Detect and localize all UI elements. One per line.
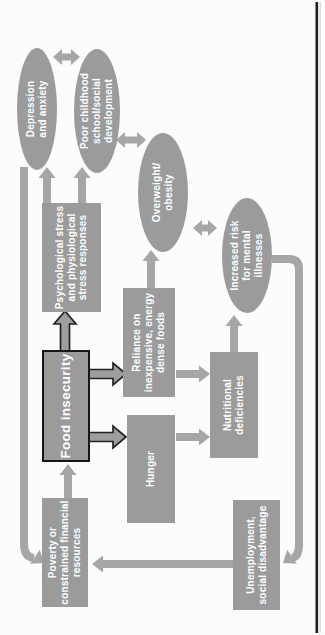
node-hunger-label: Hunger (127, 415, 175, 523)
node-increased-risk-mental-illness: Increased risk for mental illnesses (222, 198, 272, 313)
node-nutritional-deficiencies-label: Nutritional deficiencies (210, 352, 258, 458)
node-unemployment-social-disadvantage: Unemployment, social disadvantage (233, 500, 280, 610)
node-depression-anxiety: Depression and anxiety (17, 48, 57, 170)
node-food-insecurity-label: Food insecurity (44, 352, 88, 460)
arrow-poverty-to-food-insecurity (60, 464, 77, 499)
node-psychological-stress-label: Psychological stress and physiological s… (42, 203, 101, 312)
node-poor-childhood-development-label: Poor childhood school/social development (74, 49, 120, 173)
node-poor-childhood-development: Poor childhood school/social development (74, 49, 120, 173)
node-increased-risk-mental-illness-label: Increased risk for mental illnesses (222, 198, 272, 313)
arrow-nutritional-to-increased-risk (226, 315, 243, 353)
node-poverty-financial-resources: Poverty or constrained financial resourc… (42, 498, 88, 607)
node-nutritional-deficiencies: Nutritional deficiencies (210, 352, 258, 458)
arrow-reliance-to-overweight (143, 250, 160, 289)
flowchart-canvas: Depression and anxiety Poor childhood sc… (0, 0, 325, 635)
node-reliance-energy-dense-foods-label: Reliance on inexpensive, energy dense fo… (123, 288, 175, 397)
node-overweight-obesity: Overweight/ obesity (138, 133, 188, 252)
node-reliance-energy-dense-foods: Reliance on inexpensive, energy dense fo… (123, 288, 175, 397)
node-unemployment-social-disadvantage-label: Unemployment, social disadvantage (233, 500, 280, 610)
arrow-food-to-psych-stress (54, 311, 76, 351)
node-psychological-stress: Psychological stress and physiological s… (42, 203, 101, 312)
feedback-arrow-depression-to-poverty (24, 167, 44, 564)
node-overweight-obesity-label: Overweight/ obesity (138, 133, 188, 252)
double-arrow-overweight-increased-risk (193, 220, 217, 236)
node-poverty-financial-resources-label: Poverty or constrained financial resourc… (42, 498, 88, 607)
arrow-reliance-to-nutritional (176, 366, 210, 383)
arrow-food-to-reliance (89, 363, 126, 385)
arrow-hunger-to-nutritional (176, 429, 210, 446)
node-hunger: Hunger (127, 415, 175, 523)
node-food-insecurity: Food insecurity (42, 350, 90, 462)
arrow-unemployment-to-poverty (92, 556, 233, 573)
node-depression-anxiety-label: Depression and anxiety (17, 48, 57, 170)
page-border-line (316, 2, 321, 633)
arrow-food-to-hunger (89, 426, 126, 448)
arrow-psych-to-depression (39, 167, 56, 204)
